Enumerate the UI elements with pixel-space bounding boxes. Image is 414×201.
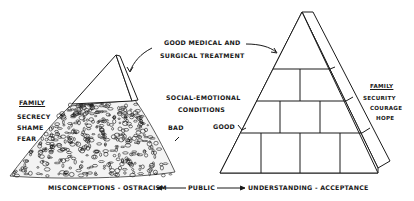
brick-pyramid — [220, 12, 390, 173]
center-label-line1: SOCIAL-EMOTIONAL — [166, 95, 240, 101]
bad-label: BAD — [168, 125, 184, 131]
left-family-heading: FAMILY — [19, 100, 45, 106]
pebble — [169, 174, 172, 175]
top-label-line1: GOOD MEDICAL AND — [164, 40, 241, 46]
bottom-left-label: MISCONCEPTIONS - OSTRACISM — [48, 185, 167, 191]
left-family-item: SECRECY — [17, 114, 51, 120]
bottom-center-label: PUBLIC — [188, 185, 215, 191]
center-label-line2: CONDITIONS — [178, 107, 225, 113]
pebble — [161, 174, 165, 177]
right-family-item: SECURITY — [363, 96, 396, 102]
right-family-heading: FAMILY — [370, 84, 393, 90]
bottom-right-label: UNDERSTANDING - ACCEPTANCE — [248, 185, 369, 191]
right-family-item: COURAGE — [370, 106, 402, 112]
right-family-item: HOPE — [376, 116, 394, 122]
left-family-item: FEAR — [17, 136, 36, 142]
left-family-item: SHAME — [17, 125, 44, 131]
good-label: GOOD — [213, 124, 235, 130]
broken-pyramid-tip — [72, 55, 138, 104]
top-label-line2: SURGICAL TREATMENT — [160, 53, 244, 59]
